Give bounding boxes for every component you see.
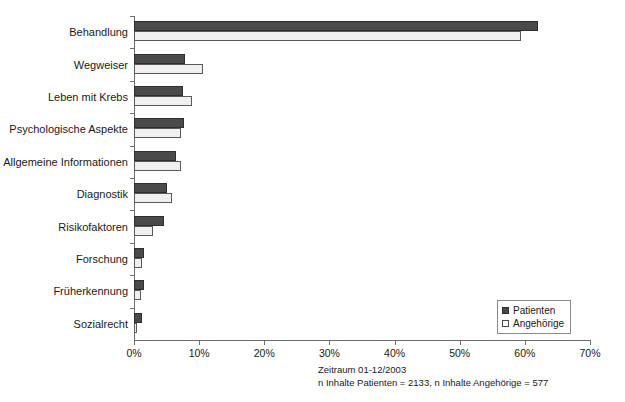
bar-angehoerige xyxy=(134,193,172,203)
bar-angehoerige xyxy=(134,161,181,171)
x-axis-tick xyxy=(329,340,330,345)
bar-patienten xyxy=(134,54,185,64)
y-axis-tick xyxy=(130,210,134,211)
category-row: Forschung xyxy=(134,243,590,275)
y-axis-tick xyxy=(130,16,134,17)
bar-angehoerige xyxy=(134,128,181,138)
chart-legend: PatientenAngehörige xyxy=(497,300,571,334)
category-label: Forschung xyxy=(76,252,128,265)
category-label: Leben mit Krebs xyxy=(48,90,128,103)
category-row: Diagnostik xyxy=(134,178,590,210)
bar-angehoerige xyxy=(134,258,142,268)
category-label: Psychologische Aspekte xyxy=(9,123,128,136)
x-axis-tick-label: 10% xyxy=(189,347,210,359)
bar-angehoerige xyxy=(134,226,153,236)
y-axis-tick xyxy=(130,275,134,276)
category-row: Psychologische Aspekte xyxy=(134,113,590,145)
bar-patienten xyxy=(134,248,144,258)
x-axis-tick-label: 20% xyxy=(254,347,275,359)
bar-patienten xyxy=(134,183,167,193)
category-label: Behandlung xyxy=(69,26,128,39)
bar-patienten xyxy=(134,86,183,96)
bar-patienten xyxy=(134,118,184,128)
plot-area: BehandlungWegweiserLeben mit KrebsPsycho… xyxy=(134,16,590,340)
legend-label: Angehörige xyxy=(513,317,564,330)
bar-patienten xyxy=(134,313,142,323)
y-axis-tick xyxy=(130,243,134,244)
bar-patienten xyxy=(134,216,164,226)
chart-footnotes: Zeitraum 01-12/2003 n Inhalte Patienten … xyxy=(318,363,548,389)
legend-swatch-icon xyxy=(502,320,509,327)
x-axis-tick-label: 0% xyxy=(126,347,141,359)
legend-label: Patienten xyxy=(513,304,555,317)
category-label: Risikofaktoren xyxy=(58,220,128,233)
category-row: Wegweiser xyxy=(134,48,590,80)
y-axis-tick xyxy=(130,81,134,82)
category-row: Leben mit Krebs xyxy=(134,81,590,113)
bar-patienten xyxy=(134,151,176,161)
x-axis-tick xyxy=(134,340,135,345)
bar-angehoerige xyxy=(134,96,192,106)
y-axis-tick xyxy=(130,113,134,114)
category-label: Wegweiser xyxy=(74,58,128,71)
bar-angehoerige xyxy=(134,290,141,300)
y-axis-tick xyxy=(130,178,134,179)
x-axis-tick xyxy=(460,340,461,345)
x-axis-tick xyxy=(199,340,200,345)
y-axis-tick xyxy=(130,146,134,147)
category-label: Früherkennung xyxy=(53,285,128,298)
x-axis-line xyxy=(134,340,591,341)
x-axis-tick-label: 60% xyxy=(514,347,535,359)
x-axis-tick xyxy=(264,340,265,345)
x-axis-tick-label: 50% xyxy=(449,347,470,359)
category-row: Risikofaktoren xyxy=(134,210,590,242)
bar-chart: BehandlungWegweiserLeben mit KrebsPsycho… xyxy=(0,0,625,402)
bar-patienten xyxy=(134,21,538,31)
footnote-counts: n Inhalte Patienten = 2133, n Inhalte An… xyxy=(318,376,548,389)
bar-patienten xyxy=(134,280,144,290)
legend-item: Angehörige xyxy=(502,317,564,330)
legend-item: Patienten xyxy=(502,304,564,317)
bar-angehoerige xyxy=(134,31,521,41)
x-axis-tick xyxy=(395,340,396,345)
category-label: Diagnostik xyxy=(77,188,128,201)
x-axis-tick-label: 30% xyxy=(319,347,340,359)
category-row: Behandlung xyxy=(134,16,590,48)
footnote-period: Zeitraum 01-12/2003 xyxy=(318,363,548,376)
bar-angehoerige xyxy=(134,323,137,333)
bar-angehoerige xyxy=(134,64,203,74)
y-axis-tick xyxy=(130,308,134,309)
x-axis-tick-label: 40% xyxy=(384,347,405,359)
y-axis-tick xyxy=(130,48,134,49)
legend-swatch-icon xyxy=(502,307,509,314)
category-row: Allgemeine Informationen xyxy=(134,146,590,178)
x-axis-tick xyxy=(590,340,591,345)
x-axis-tick xyxy=(525,340,526,345)
category-label: Allgemeine Informationen xyxy=(3,155,128,168)
x-axis-tick-label: 70% xyxy=(579,347,600,359)
category-label: Sozialrecht xyxy=(74,317,128,330)
